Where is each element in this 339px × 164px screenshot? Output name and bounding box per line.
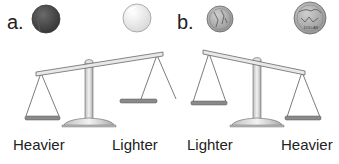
large-dollar-coin-icon: DOLLAR	[294, 2, 326, 34]
right-pan-b	[285, 116, 321, 120]
svg-text:DOLLAR: DOLLAR	[304, 26, 318, 30]
right-pan-a	[120, 99, 157, 103]
balance-scale-a	[25, 52, 176, 127]
small-coin-icon	[207, 6, 233, 32]
balance-scale-b	[191, 50, 321, 127]
panel-a-left-label: Heavier	[13, 136, 65, 153]
panel-a-right-label: Lighter	[112, 136, 158, 153]
dark-ball-icon	[32, 5, 60, 33]
panel-b-right-label: Heavier	[281, 136, 333, 153]
left-pan-b	[191, 101, 227, 105]
left-pan-a	[25, 116, 60, 120]
panel-b-left-label: Lighter	[187, 136, 233, 153]
white-ball-icon	[123, 4, 151, 32]
